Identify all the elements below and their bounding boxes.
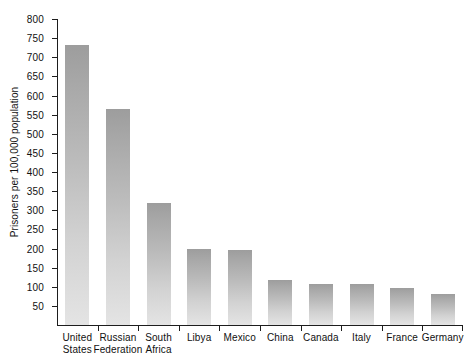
bar (187, 249, 211, 326)
x-axis-tick (138, 326, 139, 331)
y-axis-tick (52, 210, 57, 211)
x-axis-tick (260, 326, 261, 331)
x-axis-tick (422, 326, 423, 331)
bar (65, 45, 89, 325)
y-axis-tick-label: 400 (27, 167, 44, 178)
x-axis-tick (382, 326, 383, 331)
y-axis-tick-label: 450 (27, 147, 44, 158)
y-axis-tick-label: 100 (27, 281, 44, 292)
category-label-line1: Germany (422, 332, 464, 343)
category-label-line1: China (267, 332, 294, 343)
bar (228, 250, 252, 325)
category-label-line1: Libya (187, 332, 211, 343)
y-axis-tick-label: 550 (27, 109, 44, 120)
bar (431, 294, 455, 325)
y-axis-tick (52, 229, 57, 230)
y-axis-tick (52, 96, 57, 97)
y-axis-tick-label: 600 (27, 90, 44, 101)
y-axis-tick-label: 800 (27, 14, 44, 25)
x-axis-category-label: Germany (416, 332, 469, 344)
y-axis-tick (52, 306, 57, 307)
y-axis-line (57, 19, 58, 326)
category-label-line1: United (63, 332, 93, 343)
y-axis-tick-label: 50 (32, 300, 44, 311)
y-axis-tick (52, 134, 57, 135)
y-axis-title: Prisoners per 100,000 population (8, 12, 22, 312)
category-label-line1: Mexico (224, 332, 256, 343)
bar (106, 109, 130, 325)
x-axis-tick (341, 326, 342, 331)
y-axis-tick (52, 268, 57, 269)
y-axis-tick (52, 76, 57, 77)
category-label-line1: France (386, 332, 418, 343)
y-axis-tick (52, 153, 57, 154)
y-axis-tick-label: 350 (27, 186, 44, 197)
y-axis-tick-label: 250 (27, 224, 44, 235)
bar (390, 288, 414, 325)
x-axis-tick (98, 326, 99, 331)
y-axis-tick-label: 750 (27, 33, 44, 44)
x-axis-tick (179, 326, 180, 331)
plot-area: 5010015020025030035040045050055060065070… (57, 19, 463, 326)
y-axis-tick (52, 19, 57, 20)
bar (268, 280, 292, 325)
bar-chart: Prisoners per 100,000 population 5010015… (0, 0, 472, 360)
y-axis-tick-label: 650 (27, 71, 44, 82)
x-axis-tick (219, 326, 220, 331)
y-axis-tick-label: 700 (27, 52, 44, 63)
category-label-line1: South (145, 332, 172, 343)
y-axis-tick-label: 200 (27, 243, 44, 254)
x-axis-tick (462, 326, 463, 331)
x-axis-tick (301, 326, 302, 331)
y-axis-tick (52, 38, 57, 39)
category-label-line1: Italy (352, 332, 371, 343)
category-label-line1: Canada (303, 332, 339, 343)
y-axis-tick (52, 287, 57, 288)
category-label-line1: Russian (99, 332, 136, 343)
y-axis-tick (52, 249, 57, 250)
y-axis-tick-label: 300 (27, 205, 44, 216)
y-axis-tick (52, 191, 57, 192)
y-axis-tick-label: 150 (27, 262, 44, 273)
y-axis-tick-label: 500 (27, 128, 44, 139)
bar (309, 284, 333, 325)
y-axis-tick (52, 172, 57, 173)
bar (147, 203, 171, 325)
bar (350, 284, 374, 325)
y-axis-tick (52, 115, 57, 116)
y-axis-tick (52, 57, 57, 58)
category-label-line2: Africa (132, 344, 185, 356)
